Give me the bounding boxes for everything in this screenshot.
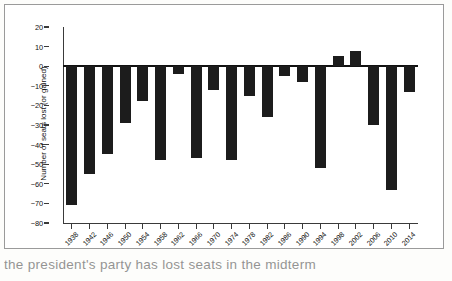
bar [368, 66, 379, 125]
y-axis-tick-label: −20 [31, 101, 43, 110]
y-axis-tick-label: −40 [31, 140, 43, 149]
bar [226, 66, 237, 160]
y-axis-tick-label: −10 [31, 81, 43, 90]
x-axis-tick [160, 224, 161, 229]
x-axis-tick [89, 224, 90, 229]
bar [208, 66, 219, 90]
x-axis-tick [409, 224, 410, 229]
bar [404, 66, 415, 91]
y-axis-tick [44, 124, 49, 125]
plot-area [63, 27, 418, 223]
x-axis-tick [107, 224, 108, 229]
y-axis-tick [44, 222, 49, 223]
y-axis-tick [44, 66, 49, 67]
figure-caption: the president's party has lost seats in … [4, 252, 444, 278]
y-axis-tick-label: −70 [31, 199, 43, 208]
y-axis-tick [44, 26, 49, 27]
bar [315, 66, 326, 168]
x-axis-tick [71, 224, 72, 229]
y-axis-tick-label: −80 [31, 219, 43, 228]
x-axis-tick [284, 224, 285, 229]
x-axis-tick [302, 224, 303, 229]
x-axis-tick [249, 224, 250, 229]
y-axis-tick [44, 203, 49, 204]
zero-baseline [63, 65, 418, 67]
bar [66, 66, 77, 205]
bar [137, 66, 148, 101]
bar [84, 66, 95, 174]
bar [102, 66, 113, 154]
y-axis-tick [44, 105, 49, 106]
y-axis-tick-label: −30 [31, 121, 43, 130]
x-axis-tick [178, 224, 179, 229]
x-axis-tick [373, 224, 374, 229]
y-axis-tick-label: −60 [31, 179, 43, 188]
figure-page: Number of seats lost (or gained) 20100−1… [0, 0, 452, 281]
bar [173, 66, 184, 74]
y-axis-tick-label: 0 [39, 62, 43, 71]
x-axis-tick [338, 224, 339, 229]
bar [155, 66, 166, 160]
x-axis-tick [320, 224, 321, 229]
bar [244, 66, 255, 95]
x-axis-tick [267, 224, 268, 229]
x-axis-tick [196, 224, 197, 229]
x-axis-tick [142, 224, 143, 229]
y-axis-tick-label: 10 [35, 42, 43, 51]
x-axis-tick [213, 224, 214, 229]
bar [333, 56, 344, 66]
bar [350, 51, 361, 67]
bar [386, 66, 397, 189]
y-axis-tick [44, 85, 49, 86]
bar [191, 66, 202, 158]
x-axis-line [63, 223, 418, 224]
y-axis-tick [44, 144, 49, 145]
bar [262, 66, 273, 117]
y-axis-tick [44, 46, 49, 47]
x-axis-tick [355, 224, 356, 229]
x-axis-tick [125, 224, 126, 229]
bar [279, 66, 290, 76]
bar [297, 66, 308, 82]
chart-frame: Number of seats lost (or gained) 20100−1… [4, 4, 444, 249]
x-axis-tick [231, 224, 232, 229]
caption-text: the president's party has lost seats in … [4, 252, 444, 278]
y-axis-tick [44, 183, 49, 184]
y-axis-tick-label: 20 [35, 23, 43, 32]
x-axis-tick [391, 224, 392, 229]
y-axis-tick-label: −50 [31, 160, 43, 169]
y-axis-tick [44, 164, 49, 165]
bar [120, 66, 131, 123]
